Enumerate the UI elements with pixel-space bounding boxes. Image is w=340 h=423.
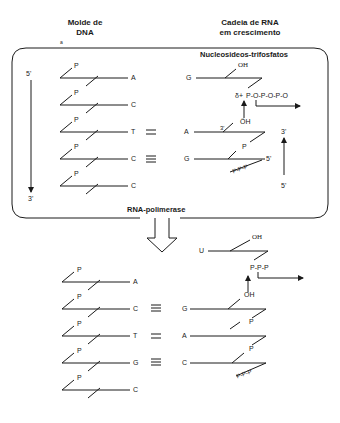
phosphate-label: P <box>74 170 79 178</box>
rna-chain-row-g <box>190 299 266 318</box>
enzyme-label: RNA-polimerase <box>127 205 185 214</box>
triple-bond-icon <box>151 305 161 311</box>
rna-base: A <box>184 128 189 136</box>
rna-base: G <box>184 155 189 163</box>
dna-base: A <box>133 278 138 286</box>
rna-base: A <box>182 332 187 340</box>
dna-base: T <box>133 332 137 340</box>
incoming-nucleotide-g <box>196 69 262 88</box>
dna-base: C <box>131 155 136 163</box>
phosphate-label: P <box>77 266 82 274</box>
phosphate-label: P <box>74 62 79 70</box>
dna-base: T <box>131 128 135 136</box>
pyrophosphate-release-arrow-icon <box>256 100 300 106</box>
pyrophosphate-release-arrow-icon <box>258 272 303 278</box>
rna-5prime-label: 5' <box>266 155 271 163</box>
strand-5prime-label: 5' <box>26 70 31 78</box>
dna-template-backbone-bottom <box>62 272 130 398</box>
phosphate-label: P <box>77 320 82 328</box>
rna-chain-row-a <box>190 322 266 345</box>
phosphate-label: P <box>74 143 79 151</box>
triple-bond-icon <box>146 156 156 162</box>
dna-base: G <box>133 359 138 367</box>
triple-bond-icon <box>151 359 161 365</box>
double-bond-icon <box>151 334 161 338</box>
attacking-oh-label: ÖH <box>240 118 251 126</box>
rna-dir-5prime-label: 5' <box>281 182 286 190</box>
rna-dir-3prime-label: 3' <box>281 128 286 136</box>
rna-3prime-label: 3' <box>220 124 224 132</box>
phosphate-label: P <box>74 116 79 124</box>
dna-base: C <box>131 182 136 190</box>
phosphate-label: P <box>249 345 254 353</box>
rna-chain-row-a <box>194 123 265 142</box>
phosphate-label: P <box>77 374 82 382</box>
dna-base: A <box>131 74 136 82</box>
phosphate-label: P <box>74 89 79 97</box>
incoming-nucleotide-u <box>208 240 268 260</box>
phosphate-label: P <box>77 293 82 301</box>
incoming-base: U <box>199 247 204 255</box>
hydroxyl-label: OH <box>252 233 262 241</box>
strand-3prime-label: 3' <box>28 195 33 203</box>
down-arrow-icon <box>147 218 177 252</box>
hydroxyl-label: OH <box>238 61 248 69</box>
triphosphate-label: P-O-P-O-P-O <box>246 92 288 100</box>
phosphate-label: P <box>242 143 247 151</box>
rna-base: G <box>182 305 187 313</box>
dna-base: C <box>133 305 138 313</box>
rna-base: C <box>182 359 187 367</box>
phosphate-label: P <box>77 347 82 355</box>
attacking-oh-label: OH <box>244 291 255 299</box>
dna-base: C <box>131 101 136 109</box>
nucleotides-label: Nucleosideos-trifosfatos <box>200 50 288 59</box>
triphosphate-label: P-P-P <box>250 264 269 272</box>
rna-chain-row-c <box>190 353 266 376</box>
dna-template-backbone-top <box>60 68 128 194</box>
charge-label: δ+ <box>235 92 243 100</box>
rna-chain-row-g <box>194 151 265 172</box>
phosphate-label: P <box>249 318 254 326</box>
double-bond-icon <box>146 130 156 134</box>
dna-base: C <box>133 386 138 394</box>
incoming-base: G <box>186 74 191 82</box>
